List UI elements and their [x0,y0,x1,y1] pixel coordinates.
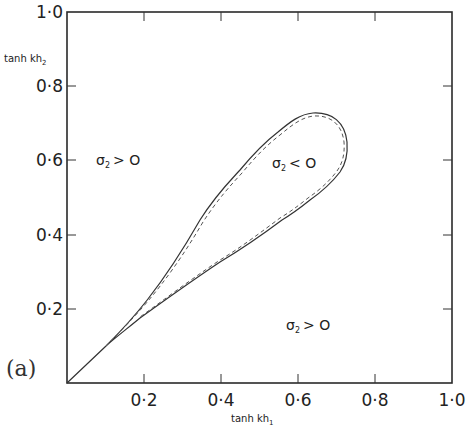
plot-frame [67,12,452,383]
y-tick-label: 1·0 [36,2,63,22]
y-tick-label: 0·8 [36,76,63,96]
x-tick-label: 1·0 [438,390,465,410]
x-axis-ticks [144,12,375,383]
y-tick-label: 0·6 [36,150,63,170]
y-axis-title: tanh kh2 [4,53,47,67]
y-tick-label: 0·2 [36,299,63,319]
x-axis-title: tanh kh1 [231,413,274,426]
region-label-upper-left: σ2> O [96,152,140,170]
region-label-lower-right: σ2> O [286,317,330,335]
panel-label: (a) [6,356,36,381]
x-tick-label: 0·2 [130,390,157,410]
stability-chart: 0·2 0·4 0·6 0·8 1·0 0·2 0·4 0·6 0·8 1·0 … [0,0,467,426]
y-axis-ticks [67,86,452,309]
dashed-curve [106,116,344,346]
y-tick-label: 0·4 [36,225,63,245]
x-tick-label: 0·4 [207,390,234,410]
x-tick-label: 0·8 [361,390,388,410]
x-tick-label: 0·6 [284,390,311,410]
region-label-inside: σ2< O [272,155,316,173]
solid-curve [67,113,347,383]
